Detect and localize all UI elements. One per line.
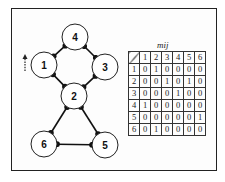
matrix-cell: 0 bbox=[184, 88, 195, 100]
matrix-row: 3000100 bbox=[129, 88, 206, 100]
matrix-header-row: 123456 bbox=[129, 52, 206, 64]
matrix-column-header: 3 bbox=[162, 52, 173, 64]
matrix-column-header: 6 bbox=[195, 52, 206, 64]
matrix-cell: 0 bbox=[140, 124, 151, 136]
edge-1-2 bbox=[53, 74, 65, 86]
matrix-cell: 1 bbox=[162, 76, 173, 88]
svg-text:2: 2 bbox=[71, 91, 77, 102]
matrix-cell: 0 bbox=[173, 76, 184, 88]
matrix-cell: 0 bbox=[184, 112, 195, 124]
matrix-cell: 0 bbox=[195, 88, 206, 100]
edge-2-3 bbox=[83, 76, 95, 87]
matrix-row: 6010000 bbox=[129, 124, 206, 136]
matrix-row: 4100000 bbox=[129, 100, 206, 112]
node-5: 5 bbox=[92, 132, 118, 158]
node-3: 3 bbox=[92, 54, 118, 80]
matrix-cell: 0 bbox=[151, 76, 162, 88]
matrix-cell: 0 bbox=[184, 64, 195, 76]
svg-text:1: 1 bbox=[41, 60, 47, 71]
node-6: 6 bbox=[31, 131, 57, 157]
matrix-column-header: 2 bbox=[151, 52, 162, 64]
matrix-cell: 0 bbox=[184, 100, 195, 112]
matrix-row-header: 3 bbox=[129, 88, 140, 100]
matrix-cell: 1 bbox=[195, 112, 206, 124]
matrix-cell: 0 bbox=[162, 112, 173, 124]
matrix-column-header: 5 bbox=[184, 52, 195, 64]
matrix-row-header: 1 bbox=[129, 64, 140, 76]
node-1: 1 bbox=[31, 52, 57, 78]
adjacency-matrix: 123456 101000020010103000100410000050000… bbox=[128, 51, 206, 136]
matrix-row-header: 6 bbox=[129, 124, 140, 136]
edge-3-4 bbox=[84, 46, 96, 58]
matrix-cell: 0 bbox=[184, 124, 195, 136]
matrix-cell: 0 bbox=[162, 64, 173, 76]
node-2: 2 bbox=[61, 83, 87, 109]
matrix-row: 5000001 bbox=[129, 112, 206, 124]
matrix-corner-cell bbox=[129, 52, 140, 64]
matrix-cell: 0 bbox=[140, 112, 151, 124]
svg-text:6: 6 bbox=[41, 139, 47, 150]
matrix-cell: 1 bbox=[140, 100, 151, 112]
matrix-row-header: 4 bbox=[129, 100, 140, 112]
matrix-cell: 0 bbox=[140, 64, 151, 76]
matrix-cell: 0 bbox=[173, 112, 184, 124]
matrix-cell: 0 bbox=[162, 88, 173, 100]
matrix-row-header: 5 bbox=[129, 112, 140, 124]
matrix-column-header: 4 bbox=[173, 52, 184, 64]
matrix-row: 2001010 bbox=[129, 76, 206, 88]
svg-text:5: 5 bbox=[102, 140, 108, 151]
matrix-title: mij bbox=[157, 40, 169, 50]
matrix-cell: 0 bbox=[162, 100, 173, 112]
matrix-cell: 0 bbox=[162, 124, 173, 136]
matrix-cell: 0 bbox=[195, 76, 206, 88]
matrix-column-header: 1 bbox=[140, 52, 151, 64]
edge-5-6 bbox=[57, 144, 92, 145]
edge-2-5 bbox=[81, 107, 98, 134]
matrix-cell: 1 bbox=[151, 124, 162, 136]
edge-4-1 bbox=[54, 46, 66, 57]
svg-text:4: 4 bbox=[72, 32, 78, 43]
matrix-cell: 0 bbox=[151, 100, 162, 112]
matrix-cell: 1 bbox=[184, 76, 195, 88]
matrix-cell: 0 bbox=[151, 88, 162, 100]
matrix-cell: 0 bbox=[173, 64, 184, 76]
svg-text:3: 3 bbox=[102, 62, 108, 73]
matrix-cell: 0 bbox=[195, 100, 206, 112]
matrix-row: 1010000 bbox=[129, 64, 206, 76]
matrix-cell: 0 bbox=[173, 124, 184, 136]
edge-6-2 bbox=[51, 107, 67, 133]
matrix-cell: 1 bbox=[173, 88, 184, 100]
matrix-cell: 0 bbox=[151, 112, 162, 124]
dashed-up-arrow-icon bbox=[23, 54, 28, 71]
matrix-cell: 1 bbox=[151, 64, 162, 76]
matrix-cell: 0 bbox=[195, 124, 206, 136]
node-4: 4 bbox=[62, 24, 88, 50]
matrix-cell: 0 bbox=[140, 88, 151, 100]
matrix-row-header: 2 bbox=[129, 76, 140, 88]
matrix-cell: 0 bbox=[173, 100, 184, 112]
matrix-cell: 0 bbox=[195, 64, 206, 76]
matrix-cell: 0 bbox=[140, 76, 151, 88]
